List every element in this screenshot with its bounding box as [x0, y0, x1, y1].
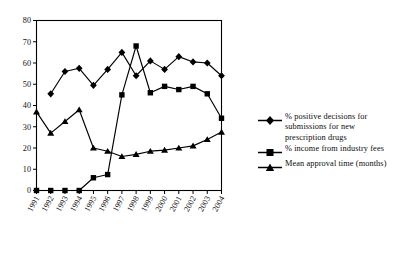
axis-frame	[37, 21, 222, 191]
x-tick-label: 1994	[68, 195, 84, 214]
data-point	[91, 175, 96, 180]
x-tick-label: 1995	[83, 195, 99, 214]
line-chart-svg: 01020304050607080 1991199219931994199519…	[0, 0, 258, 258]
square-marker-icon	[258, 145, 282, 158]
data-point	[76, 188, 81, 193]
data-point	[133, 43, 138, 48]
chart-figure: 01020304050607080 1991199219931994199519…	[0, 0, 395, 258]
series-2	[34, 43, 224, 193]
x-tick-label: 1998	[125, 195, 141, 214]
x-tick-label: 1992	[40, 195, 56, 214]
x-tick-label: 1991	[26, 195, 42, 214]
x-tick-label: 2004	[211, 195, 227, 214]
data-point	[47, 90, 54, 97]
data-point	[190, 84, 195, 89]
x-tick-label: 1997	[111, 195, 127, 214]
data-point	[218, 129, 225, 135]
y-tick-label: 50	[23, 80, 31, 89]
y-tick-label: 20	[23, 144, 31, 153]
data-point	[105, 172, 110, 177]
data-point	[34, 188, 39, 193]
y-axis-ticks: 01020304050607080	[23, 16, 37, 195]
data-point	[219, 116, 224, 121]
x-tick-label: 2000	[154, 195, 170, 214]
legend-item-label: % income from industry fees	[285, 144, 384, 154]
legend-item-positive-decisions[interactable]: % positive decisions for submissions for…	[258, 112, 395, 143]
data-point	[176, 87, 181, 92]
data-point	[204, 136, 211, 142]
plot-area: 01020304050607080 1991199219931994199519…	[0, 0, 258, 258]
y-tick-label: 80	[23, 16, 31, 25]
legend-item-mean-approval-time[interactable]: Mean approval time (months)	[258, 159, 395, 173]
legend-item-label: % positive decisions for submissions for…	[285, 112, 395, 143]
data-point	[190, 143, 197, 149]
x-tick-label: 2001	[168, 195, 184, 214]
data-point	[76, 106, 83, 112]
y-tick-label: 60	[23, 59, 31, 68]
data-point	[48, 188, 53, 193]
series-3	[33, 106, 225, 159]
diamond-marker-icon	[258, 113, 282, 126]
legend-item-label: Mean approval time (months)	[285, 159, 387, 169]
data-point	[205, 91, 210, 96]
data-point	[148, 90, 153, 95]
data-series-layer	[33, 43, 225, 193]
x-tick-label: 1999	[139, 195, 155, 214]
data-point	[190, 58, 197, 65]
data-point	[90, 145, 97, 151]
data-point	[162, 84, 167, 89]
triangle-marker-icon	[258, 160, 282, 173]
x-tick-label: 2003	[196, 195, 212, 214]
data-point	[119, 92, 124, 97]
data-point	[62, 188, 67, 193]
legend-item-industry-fees[interactable]: % income from industry fees	[258, 144, 395, 158]
y-tick-label: 30	[23, 123, 31, 132]
y-tick-label: 40	[23, 101, 31, 110]
y-tick-label: 70	[23, 38, 31, 47]
x-axis-ticks: 1991199219931994199519961997199819992000…	[26, 191, 227, 214]
x-tick-label: 1996	[97, 195, 113, 214]
data-point	[33, 109, 40, 115]
series-1	[47, 49, 225, 98]
y-tick-label: 0	[27, 186, 31, 195]
x-tick-label: 2002	[182, 195, 198, 214]
y-tick-label: 10	[23, 165, 31, 174]
chart-legend: % positive decisions for submissions for…	[258, 112, 395, 174]
data-point	[62, 68, 69, 75]
x-tick-label: 1993	[54, 195, 70, 214]
